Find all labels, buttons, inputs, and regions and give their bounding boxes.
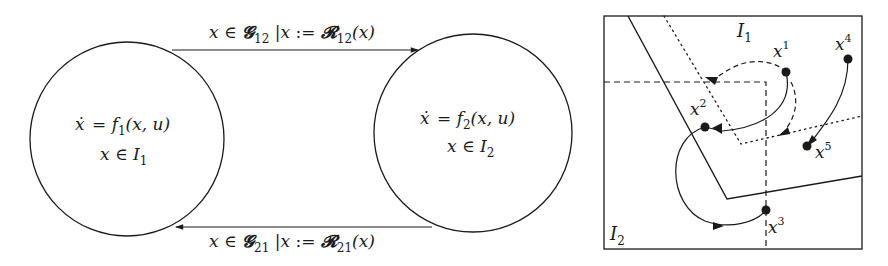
reset-jump-arrowhead: [705, 77, 718, 85]
guard-boundary-dotted: [664, 16, 862, 144]
point-x4: [844, 55, 853, 64]
point-x3: [762, 206, 771, 215]
region-label-i2: I2: [609, 223, 625, 248]
trajectory-x4-x5: [808, 59, 848, 146]
trajectory-arrowhead: [713, 222, 724, 230]
label-x1: x1: [773, 39, 790, 61]
reset-jump-left: [712, 62, 786, 81]
mode-2-invariant: x ∈ I2: [447, 136, 494, 160]
region-label-i1: I1: [736, 20, 752, 45]
state-space-panel: x1 x2 x3 x4 x5 I1 I2: [604, 16, 862, 249]
point-x2: [701, 123, 710, 132]
label-x2: x2: [690, 97, 707, 119]
mode-2-circle: [374, 34, 572, 232]
transition-21: x ∈ 𝓖21 |x := 𝓡21(x): [176, 227, 432, 256]
trajectory-arrowhead: [712, 123, 722, 134]
mode-1-dynamics: ẋ = f1(x, u): [75, 114, 170, 138]
mode-1-invariant: x ∈ I1: [100, 144, 147, 168]
mode-2-node: ẋ = f2(x, u) x ∈ I2: [374, 34, 572, 232]
state-space-frame: [604, 16, 862, 249]
label-x3: x3: [768, 215, 785, 237]
mode-1-node: ẋ = f1(x, u) x ∈ I1: [30, 42, 224, 236]
mode-2-dynamics: ẋ = f2(x, u): [420, 108, 515, 132]
transition-12: x ∈ 𝓖12 |x := 𝓡12(x): [172, 22, 418, 50]
point-x1: [782, 68, 791, 77]
guard-boundary-dashed: [604, 82, 766, 249]
mode-1-circle: [30, 42, 224, 236]
transition-12-label: x ∈ 𝓖12 |x := 𝓡12(x): [209, 22, 375, 47]
reset-jump-arrowhead: [778, 127, 790, 136]
transition-21-label: x ∈ 𝓖21 |x := 𝓡21(x): [209, 231, 375, 256]
label-x5: x5: [815, 140, 832, 162]
point-x5: [803, 142, 812, 151]
trajectory-x1-x2: [705, 72, 787, 131]
label-x4: x4: [835, 32, 852, 54]
